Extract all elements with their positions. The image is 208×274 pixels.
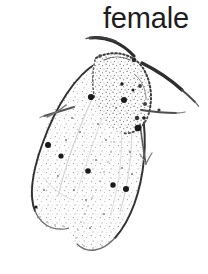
right-antenna-base (132, 58, 137, 63)
wing-spot (123, 186, 129, 192)
figure-caption: female (103, 4, 189, 33)
wing-spot (110, 182, 115, 187)
moth-illustration-figure: female (0, 0, 208, 274)
wing-spot (142, 116, 146, 120)
wing-spot (121, 97, 127, 103)
wing-spot (34, 205, 37, 208)
wing-spot (58, 153, 63, 158)
wing-spot (120, 82, 123, 85)
left-antenna-base (98, 54, 101, 57)
moth-illustration (0, 0, 208, 274)
wing-spot (135, 125, 142, 132)
wing-spot (88, 94, 94, 100)
wing-spot (45, 142, 51, 148)
wing-spot (132, 89, 135, 92)
left-antenna-icon (86, 37, 134, 56)
wing-spot (85, 168, 91, 174)
